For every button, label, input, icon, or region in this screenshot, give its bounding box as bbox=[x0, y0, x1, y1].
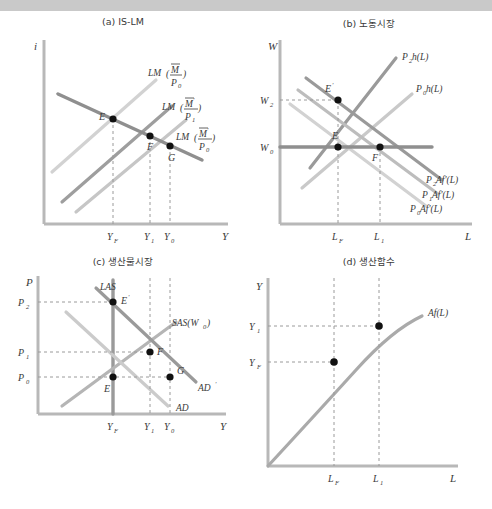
svg-text:P: P bbox=[425, 175, 432, 185]
svg-text:(: ( bbox=[194, 133, 198, 144]
point-G-is-lm bbox=[166, 142, 173, 149]
svg-text:Y: Y bbox=[107, 421, 114, 432]
ytick-w0-labor: W 0 bbox=[260, 142, 274, 155]
point-E-is-lm bbox=[109, 115, 116, 122]
curve-label-lm-mprime-p1: LM ( M ′ P 1 ) bbox=[161, 96, 201, 123]
svg-text:L: L bbox=[373, 231, 380, 242]
svg-text:F: F bbox=[113, 237, 119, 244]
curve-label-sas-w0: SAS(W 0 ) bbox=[172, 318, 210, 330]
point-E-goods bbox=[109, 373, 116, 380]
svg-text:1: 1 bbox=[257, 327, 260, 334]
curve-label-af-L: Af(L) bbox=[427, 308, 448, 319]
panel-title-production-function: (d) 생산함수 bbox=[246, 254, 492, 268]
curve-label-p2-af-L: P 2 Af'(L) bbox=[425, 175, 458, 187]
svg-text:P: P bbox=[17, 347, 24, 358]
ytick-p1-goods: P 1 bbox=[17, 347, 29, 360]
point-label-F-labor: F bbox=[371, 152, 379, 163]
point-label-Eprime-goods: E ′ bbox=[120, 293, 130, 306]
top-banner bbox=[0, 0, 492, 11]
svg-text:L: L bbox=[327, 473, 334, 484]
svg-text:0: 0 bbox=[171, 237, 175, 244]
svg-text:W: W bbox=[260, 95, 270, 106]
panel-title-text-a: IS-LM bbox=[118, 16, 144, 27]
curve-sas-w0 bbox=[62, 322, 176, 406]
point-Eprime-labor bbox=[334, 96, 341, 103]
panel-label-c: (c) bbox=[93, 256, 106, 267]
svg-text:Y: Y bbox=[164, 231, 171, 242]
svg-text:SAS(W: SAS(W bbox=[172, 318, 199, 329]
point-label-E-is-lm: E bbox=[98, 111, 105, 122]
svg-text:Y: Y bbox=[164, 421, 171, 432]
svg-text:(: ( bbox=[180, 103, 184, 114]
axis-label-Y-goods: Y bbox=[220, 420, 228, 432]
svg-text:AD: AD bbox=[197, 383, 211, 393]
svg-text:LM: LM bbox=[161, 102, 176, 112]
svg-text:F: F bbox=[113, 427, 119, 434]
panel-title-is-lm: (a) IS-LM bbox=[0, 16, 246, 27]
curve-af-L bbox=[268, 316, 422, 466]
svg-text:0: 0 bbox=[26, 378, 30, 385]
point-label-Eprime-labor: E ′ bbox=[324, 81, 334, 94]
panel-title-goods-market: (c) 생산물시장 bbox=[0, 254, 246, 268]
curve-label-lm-m-p0: LM ( M P 0 ) bbox=[147, 64, 186, 89]
svg-text:E: E bbox=[324, 83, 331, 94]
svg-text:): ) bbox=[182, 69, 186, 80]
svg-text:Y: Y bbox=[249, 357, 256, 368]
axis-label-i: i bbox=[34, 40, 37, 52]
point-label-G-is-lm: G bbox=[168, 152, 175, 163]
svg-text:′: ′ bbox=[215, 380, 217, 387]
svg-text:P: P bbox=[184, 112, 191, 122]
chart-is-lm: E F G i Y Y F Y 1 Y 0 LM ( M P 0 ) bbox=[0, 16, 246, 254]
xtick-y0-is-lm: Y 0 bbox=[164, 231, 175, 244]
curve-label-las: LAS bbox=[99, 282, 116, 292]
svg-text:′: ′ bbox=[193, 96, 195, 103]
curve-label-ad: AD bbox=[175, 403, 189, 413]
curve-label-ad-prime: AD ′ bbox=[197, 380, 217, 393]
svg-text:Af'(L): Af'(L) bbox=[419, 204, 442, 215]
point-F-goods bbox=[146, 348, 153, 355]
svg-text:1: 1 bbox=[26, 353, 29, 360]
svg-text:P: P bbox=[409, 204, 416, 214]
svg-text:1: 1 bbox=[381, 237, 384, 244]
panel-production-function: (d) 생산함수 Y L Y 1 Y F L F bbox=[246, 254, 492, 509]
axis-label-Y-is-lm: Y bbox=[222, 230, 230, 242]
svg-text:Y: Y bbox=[144, 231, 151, 242]
svg-text:P: P bbox=[198, 142, 205, 152]
svg-text:1: 1 bbox=[151, 427, 154, 434]
xtick-y0-goods: Y 0 bbox=[164, 421, 175, 434]
svg-text:E: E bbox=[120, 295, 127, 306]
xtick-l1-production: L 1 bbox=[372, 473, 383, 486]
svg-text:2: 2 bbox=[26, 303, 30, 310]
xtick-y1-is-lm: Y 1 bbox=[144, 231, 154, 244]
svg-text:M: M bbox=[170, 65, 180, 75]
xtick-lf-production: L F bbox=[327, 473, 340, 486]
curve-label-p0-af-L: P 0 Af'(L) bbox=[409, 204, 442, 216]
svg-text:h(L): h(L) bbox=[412, 52, 428, 63]
svg-text:): ) bbox=[206, 318, 210, 329]
point-F-is-lm bbox=[146, 132, 153, 139]
panel-goods-market: (c) 생산물시장 E ′ F G E P Y bbox=[0, 254, 246, 509]
chart-production-function: Y L Y 1 Y F L F L 1 Af(L) bbox=[246, 254, 492, 509]
svg-text:P: P bbox=[17, 372, 24, 383]
point-label-F-goods: F bbox=[156, 346, 164, 357]
svg-text:LM: LM bbox=[147, 68, 162, 78]
ytick-p0-goods: P 0 bbox=[17, 372, 30, 385]
xtick-lf-labor: L F bbox=[331, 231, 344, 244]
ytick-p2-goods: P 2 bbox=[17, 297, 30, 310]
svg-text:Y: Y bbox=[249, 321, 256, 332]
svg-text:P: P bbox=[421, 190, 428, 200]
curve-label-p0-h-L: P 0 h(L) bbox=[415, 84, 442, 96]
svg-text:): ) bbox=[211, 133, 215, 144]
point-label-F-is-lm: F bbox=[146, 141, 154, 152]
point-F-labor bbox=[376, 143, 383, 150]
point-E-labor bbox=[334, 143, 341, 150]
svg-text:Y: Y bbox=[107, 231, 114, 242]
panel-title-text-c: 생산물시장 bbox=[108, 256, 153, 267]
xtick-yf-goods: Y F bbox=[107, 421, 119, 434]
axis-label-L-labor: L bbox=[464, 230, 471, 242]
axis-label-W: W bbox=[268, 40, 278, 52]
ytick-w2-labor: W 2 bbox=[260, 95, 274, 108]
panel-is-lm: (a) IS-LM E F G i Y Y F bbox=[0, 16, 246, 254]
curve-p0-af-L bbox=[290, 104, 426, 206]
svg-text:F: F bbox=[334, 479, 340, 486]
